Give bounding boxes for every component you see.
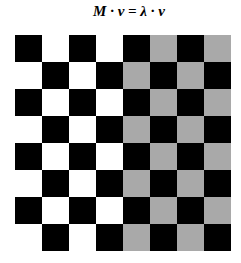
gray-square: [150, 89, 177, 116]
dark-square: [96, 224, 123, 251]
dark-square: [150, 62, 177, 89]
dark-square: [96, 116, 123, 143]
dark-square: [42, 170, 69, 197]
dark-square: [177, 35, 204, 62]
dark-square: [123, 143, 150, 170]
white-square: [42, 143, 69, 170]
white-square: [69, 62, 96, 89]
white-square: [15, 62, 42, 89]
dark-square: [204, 62, 231, 89]
dark-square: [15, 143, 42, 170]
white-square: [96, 35, 123, 62]
gray-square: [177, 170, 204, 197]
white-square: [42, 35, 69, 62]
white-square: [69, 116, 96, 143]
dark-square: [69, 197, 96, 224]
dark-square: [15, 197, 42, 224]
dark-square: [150, 224, 177, 251]
dark-square: [69, 35, 96, 62]
dark-square: [42, 224, 69, 251]
gray-square: [123, 62, 150, 89]
gray-square: [204, 89, 231, 116]
gray-square: [150, 197, 177, 224]
white-square: [96, 89, 123, 116]
white-square: [42, 89, 69, 116]
gray-square: [204, 143, 231, 170]
gray-square: [204, 35, 231, 62]
dark-square: [42, 116, 69, 143]
white-square: [69, 224, 96, 251]
dark-square: [123, 197, 150, 224]
white-square: [15, 116, 42, 143]
dark-square: [204, 116, 231, 143]
gray-square: [177, 116, 204, 143]
dark-square: [204, 170, 231, 197]
white-square: [96, 143, 123, 170]
dark-square: [69, 143, 96, 170]
gray-square: [150, 35, 177, 62]
gray-square: [123, 116, 150, 143]
dark-square: [42, 62, 69, 89]
gray-square: [123, 224, 150, 251]
dark-square: [123, 35, 150, 62]
dark-square: [150, 116, 177, 143]
white-square: [15, 170, 42, 197]
dark-square: [15, 89, 42, 116]
gray-square: [177, 224, 204, 251]
dark-square: [150, 170, 177, 197]
white-square: [42, 197, 69, 224]
gray-square: [150, 143, 177, 170]
white-square: [69, 170, 96, 197]
gray-square: [204, 197, 231, 224]
white-square: [15, 224, 42, 251]
gray-square: [177, 62, 204, 89]
dark-square: [96, 170, 123, 197]
dark-square: [123, 89, 150, 116]
gray-square: [123, 170, 150, 197]
dark-square: [177, 143, 204, 170]
equation-title: M · v = λ · v: [0, 2, 241, 20]
white-square: [96, 197, 123, 224]
dark-square: [177, 89, 204, 116]
dark-square: [204, 224, 231, 251]
dark-square: [96, 62, 123, 89]
dark-square: [177, 197, 204, 224]
dark-square: [15, 35, 42, 62]
checkerboard: [15, 35, 231, 251]
dark-square: [69, 89, 96, 116]
